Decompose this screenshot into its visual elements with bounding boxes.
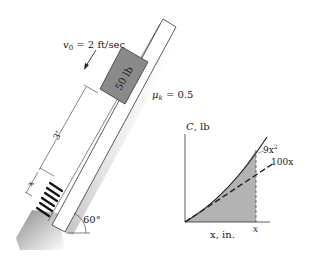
spring <box>37 183 62 216</box>
curve-label-9x2: 9x2 <box>263 143 278 155</box>
velocity-label: v0 = 2 ft/sec <box>63 39 126 52</box>
angle-label: 60° <box>83 214 101 225</box>
y-axis-label: C, lb <box>186 121 210 132</box>
shaded-area <box>185 150 256 222</box>
friction-label: μk = 0.5 <box>152 89 193 102</box>
line-label-100x: 100x <box>271 157 293 167</box>
x-tick-label: x <box>253 224 258 234</box>
force-deflection-graph <box>185 134 274 222</box>
incline-board <box>48 19 176 232</box>
x-axis-label: x, in. <box>210 229 235 240</box>
velocity-arrow <box>84 50 96 70</box>
spring-compression-label: x <box>25 179 36 188</box>
distance-label: 3' <box>51 129 64 141</box>
diagram-canvas: 50 lb v0 = 2 ft/sec 3' x 60° μk = 0.5 <box>0 0 313 261</box>
